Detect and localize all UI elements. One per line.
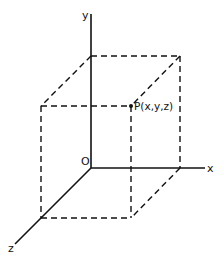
- y-axis-label: y: [82, 9, 89, 22]
- x-axis-label: x: [207, 162, 214, 175]
- origin-label: O: [81, 155, 90, 168]
- box-edge-top-right: [131, 56, 180, 106]
- box-edge-top-left: [41, 56, 91, 106]
- point-p-marker: [129, 104, 133, 108]
- z-axis: [15, 168, 91, 244]
- box-edge-bottom-right: [131, 168, 180, 218]
- point-p-label: P(x,y,z): [134, 100, 173, 112]
- coordinate-diagram: y x z O P(x,y,z): [0, 0, 224, 262]
- z-axis-label: z: [8, 242, 14, 255]
